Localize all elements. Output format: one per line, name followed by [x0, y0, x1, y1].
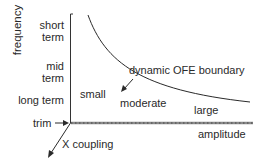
- y-level-short-line2: term: [30, 31, 64, 43]
- y-level-long-term: long term: [4, 94, 64, 106]
- y-axis-label: frequency: [11, 0, 23, 60]
- depth-axis-label: X coupling: [62, 138, 113, 150]
- origin-label-trim: trim: [33, 117, 51, 129]
- depth-axis-arrowhead: [48, 150, 54, 158]
- y-level-short-term: short term: [30, 19, 64, 43]
- y-level-mid-line1: mid: [30, 60, 64, 72]
- ofe-boundary-curve: [88, 15, 250, 102]
- x-axis-label: amplitude: [198, 128, 246, 140]
- y-level-mid-line2: term: [30, 72, 64, 84]
- region-large: large: [194, 104, 218, 116]
- trim-arrowhead: [63, 120, 69, 126]
- region-moderate: moderate: [120, 97, 166, 109]
- boundary-label: dynamic OFE boundary: [129, 64, 245, 76]
- region-small: small: [80, 88, 106, 100]
- y-level-short-line1: short: [30, 19, 64, 31]
- y-level-mid-term: mid term: [30, 60, 64, 84]
